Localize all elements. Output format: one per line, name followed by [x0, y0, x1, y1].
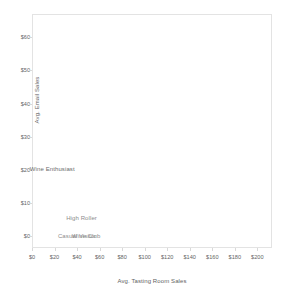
- y-tick-label: $50: [0, 67, 30, 73]
- x-tick-mark: [145, 248, 146, 251]
- y-tick-mark: [29, 104, 32, 105]
- plot-area: [32, 14, 272, 248]
- y-tick-mark: [29, 137, 32, 138]
- y-tick-mark: [29, 70, 32, 71]
- x-axis-title: Avg. Tasting Room Sales: [32, 278, 272, 284]
- x-tick-mark: [55, 248, 56, 251]
- x-tick-mark: [100, 248, 101, 251]
- x-tick-label: $200: [240, 254, 274, 260]
- y-tick-label: $40: [0, 101, 30, 107]
- x-tick-mark: [77, 248, 78, 251]
- point-label: Wine Enthusiast: [30, 166, 75, 172]
- point-label: High Roller: [66, 215, 97, 221]
- y-tick-label: $20: [0, 167, 30, 173]
- x-tick-mark: [257, 248, 258, 251]
- y-tick-label: $10: [0, 200, 30, 206]
- y-tick-mark: [29, 236, 32, 237]
- x-tick-mark: [235, 248, 236, 251]
- y-tick-label: $30: [0, 134, 30, 140]
- x-tick-mark: [32, 248, 33, 251]
- y-tick-mark: [29, 203, 32, 204]
- x-tick-mark: [167, 248, 168, 251]
- y-axis-title: Avg. Email Sales: [34, 60, 40, 140]
- x-tick-mark: [212, 248, 213, 251]
- point-label: Wine Club: [72, 233, 101, 239]
- x-tick-mark: [122, 248, 123, 251]
- y-tick-label: $0: [0, 233, 30, 239]
- x-tick-mark: [190, 248, 191, 251]
- y-tick-label: $60: [0, 34, 30, 40]
- y-tick-mark: [29, 37, 32, 38]
- scatter-chart: Avg. Email Sales Avg. Tasting Room Sales…: [0, 0, 285, 295]
